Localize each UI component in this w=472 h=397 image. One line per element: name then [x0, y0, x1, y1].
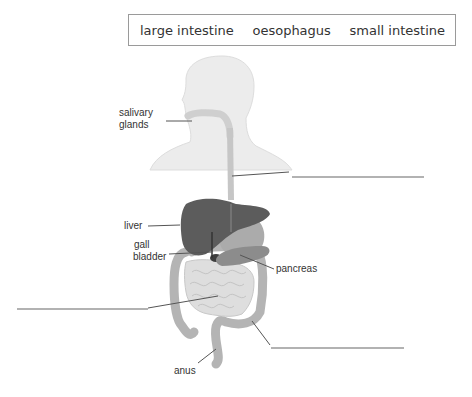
label-salivary-line2: glands [119, 119, 153, 131]
small-intestine-organ [185, 260, 255, 317]
label-pancreas: pancreas [276, 263, 317, 275]
label-liver: liver [124, 220, 142, 232]
label-salivary-line1: salivary [119, 107, 153, 119]
oesophagus-leader-line [232, 172, 289, 176]
oesophagus-organ [230, 128, 231, 200]
label-gall-line2: bladder [133, 251, 166, 263]
digestive-system-diagram [0, 0, 472, 397]
liver-leader-line [148, 225, 180, 226]
label-salivary-glands: salivary glands [119, 107, 153, 131]
label-gall-line1: gall [134, 239, 166, 251]
large-intestine-leader-line [252, 321, 270, 345]
label-anus: anus [174, 365, 196, 377]
label-gall-bladder: gall bladder [134, 239, 166, 263]
